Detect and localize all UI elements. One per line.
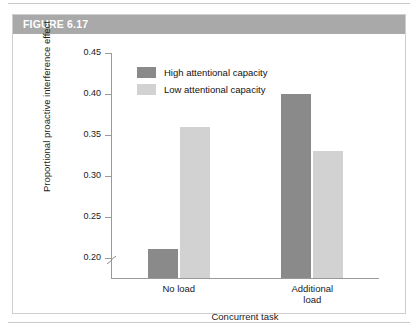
chart-legend: High attentional capacityLow attentional… (137, 65, 268, 99)
y-tick-mark (105, 53, 111, 54)
figure-title: FIGURE 6.17 (23, 18, 88, 30)
x-category-label: No load (133, 283, 225, 294)
y-tick-mark (105, 217, 111, 218)
top-divider (8, 3, 410, 4)
x-axis-title: Concurrent task (111, 311, 379, 322)
bottom-divider (8, 322, 410, 323)
legend-swatch (137, 84, 156, 95)
bar (281, 94, 311, 278)
y-tick-label: 0.40 (67, 88, 101, 98)
figure-header-band: FIGURE 6.17 (13, 15, 405, 34)
y-tick-label: 0.35 (67, 129, 101, 139)
x-axis-line (111, 278, 379, 279)
legend-label: High attentional capacity (164, 67, 268, 78)
y-tick-label: 0.30 (67, 170, 101, 180)
y-tick-mark (105, 135, 111, 136)
bar (148, 249, 178, 278)
figure-frame: FIGURE 6.17 0.450.400.350.300.250.20 Pro… (12, 14, 406, 314)
legend-swatch (137, 67, 156, 78)
y-axis-title: Proportional proactive interference effe… (41, 12, 52, 202)
y-tick-label: 0.20 (67, 252, 101, 262)
legend-item: Low attentional capacity (137, 82, 268, 97)
legend-item: High attentional capacity (137, 65, 268, 80)
y-tick-label: 0.45 (67, 47, 101, 57)
legend-label: Low attentional capacity (164, 84, 265, 95)
y-tick-label: 0.25 (67, 211, 101, 221)
figure-container: FIGURE 6.17 0.450.400.350.300.250.20 Pro… (0, 0, 418, 328)
bar (313, 151, 343, 278)
x-category-label: Additional load (281, 283, 343, 305)
y-tick-mark (105, 94, 111, 95)
bar (180, 127, 210, 278)
y-tick-mark (105, 176, 111, 177)
